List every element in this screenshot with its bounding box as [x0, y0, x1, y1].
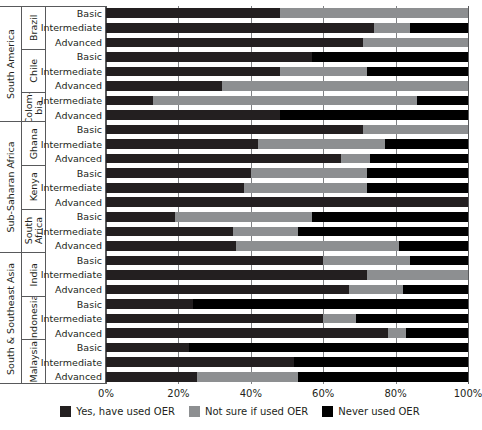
bar-row [106, 23, 468, 33]
country-label-text: Chile [29, 59, 39, 83]
plot-area [106, 6, 468, 384]
bar-segment-yes [106, 372, 197, 382]
bar-segment-yes [106, 154, 341, 164]
region-label-text: South America [6, 29, 16, 99]
bar-segment-never [403, 285, 468, 295]
bar-row [106, 285, 468, 295]
bar-segment-notsure [153, 96, 417, 106]
chart-legend: Yes, have used OERNot sure if used OERNe… [0, 406, 480, 417]
country-label-text: Brazil [29, 14, 39, 41]
bar-segment-never [280, 110, 468, 120]
country-label-text: Kenya [29, 173, 39, 202]
bar-segment-yes [106, 197, 468, 207]
level-label: Basic [46, 253, 106, 268]
level-label: Basic [46, 166, 106, 181]
bar-segment-never [399, 241, 468, 251]
bar-segment-yes [106, 125, 363, 135]
legend-swatch-notsure [189, 406, 200, 417]
level-label: Basic [46, 340, 106, 355]
x-tick-label: 40% [240, 388, 262, 399]
bar-row [106, 52, 468, 62]
level-label: Intermediate [46, 355, 106, 370]
legend-label: Not sure if used OER [205, 406, 308, 417]
bar-segment-yes [106, 314, 323, 324]
level-label: Advanced [46, 369, 106, 384]
bar-segment-yes [106, 212, 175, 222]
gridline-20 [178, 6, 179, 384]
bar-segment-notsure [388, 328, 406, 338]
gridline-40 [251, 6, 252, 384]
x-tick-label: 0% [98, 388, 114, 399]
level-label: Advanced [46, 151, 106, 166]
region-label: South & Southeast Asia [0, 253, 22, 384]
bar-segment-never [417, 96, 468, 106]
level-label: Advanced [46, 79, 106, 94]
bar-segment-notsure [349, 285, 403, 295]
level-label: Basic [46, 6, 106, 21]
bar-segment-never [367, 183, 468, 193]
bar-segment-notsure [374, 23, 410, 33]
x-tick-label: 60% [312, 388, 334, 399]
bar-segment-yes [106, 23, 374, 33]
bar-segment-yes [106, 8, 280, 18]
bar-row [106, 212, 468, 222]
region-label-text: South & Southeast Asia [6, 263, 16, 375]
country-label-text: Malaysia [29, 341, 39, 383]
gridline-80 [396, 6, 397, 384]
bar-segment-yes [106, 241, 236, 251]
bar-segment-yes [106, 52, 312, 62]
level-label: Intermediate [46, 64, 106, 79]
bar-segment-notsure [236, 241, 399, 251]
bar-segment-never [367, 67, 468, 77]
x-tick-label: 100% [454, 388, 482, 399]
bar-segment-notsure [251, 168, 367, 178]
bar-row [106, 67, 468, 77]
gridline-0 [106, 6, 107, 384]
bar-row [106, 372, 468, 382]
legend-item[interactable]: Yes, have used OER [60, 406, 175, 417]
level-label: Basic [46, 297, 106, 312]
bar-segment-yes [106, 183, 244, 193]
bar-row [106, 38, 468, 48]
legend-item[interactable]: Never used OER [322, 406, 419, 417]
bar-segment-yes [106, 67, 280, 77]
level-label: Advanced [46, 326, 106, 341]
level-label: Intermediate [46, 180, 106, 195]
bar-segment-notsure [363, 38, 468, 48]
bar-segment-yes [106, 81, 222, 91]
bar-row [106, 328, 468, 338]
bar-row [106, 270, 468, 280]
bar-row [106, 110, 468, 120]
bar-segment-never [410, 256, 468, 266]
bar-segment-never [189, 343, 468, 353]
legend-label: Never used OER [338, 406, 419, 417]
bar-row [106, 343, 468, 353]
bar-segment-notsure [175, 212, 313, 222]
bar-row [106, 139, 468, 149]
gridline-100 [468, 6, 469, 384]
bar-segment-yes [106, 357, 294, 367]
bar-segment-never [356, 314, 468, 324]
bar-row [106, 154, 468, 164]
bar-row [106, 299, 468, 309]
bar-segment-yes [106, 168, 251, 178]
bar-segment-yes [106, 299, 193, 309]
bar-segment-notsure [244, 183, 367, 193]
level-label: Intermediate [46, 311, 106, 326]
bar-segment-never [367, 168, 468, 178]
bar-segment-yes [106, 285, 349, 295]
bar-segment-never [410, 23, 468, 33]
bar-row [106, 357, 468, 367]
level-label: Intermediate [46, 93, 106, 108]
bar-segment-notsure [363, 125, 468, 135]
category-axis-labels: South AmericaSub-Saharan AfricaSouth & S… [0, 0, 106, 384]
legend-item[interactable]: Not sure if used OER [189, 406, 308, 417]
bar-segment-yes [106, 227, 233, 237]
bar-row [106, 96, 468, 106]
bar-segment-notsure [222, 81, 468, 91]
legend-label: Yes, have used OER [76, 406, 175, 417]
level-label: Advanced [46, 35, 106, 50]
gridline-60 [323, 6, 324, 384]
bar-row [106, 8, 468, 18]
bar-row [106, 197, 468, 207]
